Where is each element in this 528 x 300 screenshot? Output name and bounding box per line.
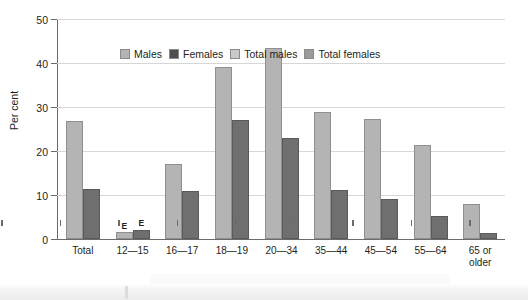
x-category-label-line: 65 or <box>455 245 505 257</box>
x-category-label: 65 orolder <box>455 245 505 269</box>
scan-artifact-ghost <box>150 274 450 284</box>
x-category-label: 18—19 <box>207 245 257 269</box>
y-tick-label: 50 <box>36 14 48 26</box>
legend-label: Males <box>134 48 162 60</box>
bar-males <box>265 48 282 238</box>
legend-swatch <box>169 49 179 59</box>
y-tick-label: 10 <box>36 190 48 202</box>
y-axis-title: Per cent <box>8 91 20 130</box>
y-tick-label: 0 <box>42 234 48 246</box>
bar-males <box>215 67 232 238</box>
y-tick-mark <box>51 239 57 240</box>
x-tick-mark <box>411 220 412 226</box>
x-tick-mark <box>60 220 61 226</box>
x-category-label-line: 12—15 <box>108 245 158 257</box>
scan-artifact-nick <box>125 286 128 299</box>
bar-group <box>406 20 456 239</box>
bar-females <box>83 189 100 239</box>
legend-swatch <box>120 49 130 59</box>
y-tick-mark <box>51 19 57 20</box>
x-category-label-line: 45—54 <box>356 245 406 257</box>
x-category-label-line: older <box>455 257 505 269</box>
legend-swatch <box>230 49 240 59</box>
y-tick-mark <box>51 195 57 196</box>
bar-males: E <box>116 232 133 239</box>
legend-label: Total males <box>244 48 297 60</box>
y-tick-mark <box>51 151 57 152</box>
x-category-label: 35—44 <box>306 245 356 269</box>
x-tick-mark <box>294 220 295 226</box>
bar-females: E <box>133 230 150 239</box>
x-category-label-line: Total <box>58 245 108 257</box>
chart-figure: Per cent 01020304050 EE MalesFemalesTota… <box>0 0 528 300</box>
x-category-label-line: 55—64 <box>406 245 456 257</box>
x-category-label-line: 18—19 <box>207 245 257 257</box>
x-axis-line <box>57 239 505 240</box>
legend-label: Females <box>183 48 223 60</box>
bar-males <box>165 164 182 238</box>
x-category-label: 20—34 <box>257 245 307 269</box>
x-tick-mark <box>1 220 2 226</box>
x-tick-mark <box>235 220 236 226</box>
chart-legend: MalesFemalesTotal malesTotal females <box>120 48 380 60</box>
x-category-label: 12—15 <box>108 245 158 269</box>
scan-artifact-band <box>0 284 528 300</box>
x-category-label: 45—54 <box>356 245 406 269</box>
legend-item: Females <box>169 48 223 60</box>
legend-item: Total females <box>304 48 380 60</box>
x-tick-mark <box>352 220 353 226</box>
x-category-label-line: 35—44 <box>306 245 356 257</box>
x-tick-mark <box>177 220 178 226</box>
x-tick-marks <box>1 220 528 227</box>
y-tick-mark <box>51 107 57 108</box>
x-tick-mark <box>469 220 470 226</box>
bar-females <box>331 190 348 239</box>
legend-label: Total females <box>318 48 380 60</box>
x-category-label: 55—64 <box>406 245 456 269</box>
bar-females <box>480 233 497 239</box>
y-tick-label: 20 <box>36 146 48 158</box>
x-tick-mark <box>118 220 119 226</box>
y-tick-mark <box>51 63 57 64</box>
y-tick-label: 30 <box>36 102 48 114</box>
x-category-labels: Total12—1516—1718—1920—3435—4445—5455—64… <box>58 245 505 269</box>
x-category-label-line: 16—17 <box>157 245 207 257</box>
y-tick-label: 40 <box>36 58 48 70</box>
bar-females <box>182 191 199 238</box>
bar-group <box>455 20 505 239</box>
legend-swatch <box>304 49 314 59</box>
x-category-label: 16—17 <box>157 245 207 269</box>
legend-item: Males <box>120 48 162 60</box>
bar-group <box>58 20 108 239</box>
x-category-label: Total <box>58 245 108 269</box>
legend-item: Total males <box>230 48 297 60</box>
bar-females <box>381 199 398 238</box>
plot-area: 01020304050 EE MalesFemalesTotal malesTo… <box>57 20 505 240</box>
x-category-label-line: 20—34 <box>257 245 307 257</box>
